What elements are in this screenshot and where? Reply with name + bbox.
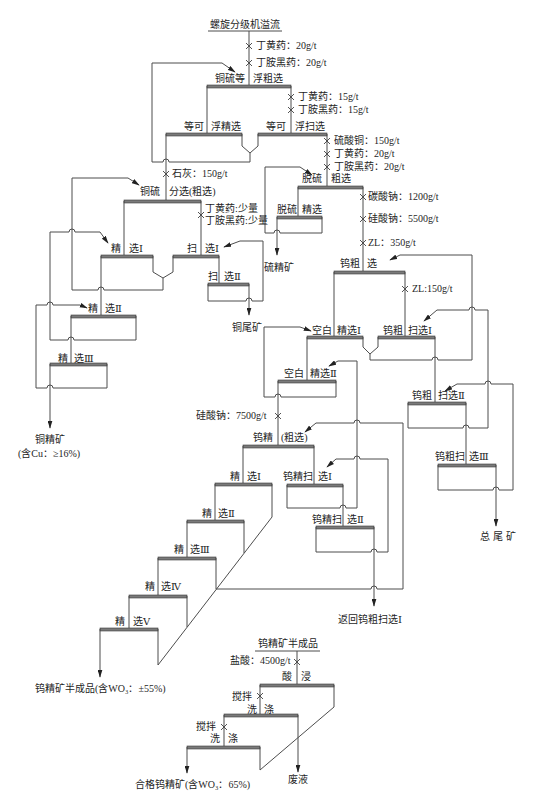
cell-cu-scav-1 [173, 255, 219, 258]
cell-w-cleaner-2 [187, 520, 244, 523]
cell-label: 钨粗扫 [435, 451, 465, 463]
cell-label: 扫 [187, 243, 197, 255]
product-copper-grade: (含Cu：≥16%) [18, 448, 80, 460]
product-w-semi: 钨精矿半成品(含WO₃：±55%) [35, 683, 166, 695]
reagent-label: 丁黄药：20g/t [256, 40, 317, 52]
cell-label: 脱硫 [302, 173, 322, 185]
reagent-label: 丁黄药：20g/t [334, 148, 395, 160]
cell-acid-leach [260, 684, 334, 687]
cell-label: 浮扫选 [295, 121, 325, 133]
reagent-label: 丁胺黑药:少量 [205, 215, 268, 227]
cell-label: 浸 [301, 671, 311, 683]
reagent-label: 丁胺黑药：15g/t [298, 104, 369, 116]
cell-cu-scav-2 [208, 283, 249, 286]
cell-label: 选 [367, 258, 377, 270]
cell-label: 铜硫等 [215, 73, 245, 85]
cell-w-rough-scav-3 [438, 464, 496, 467]
feed-label: 螺旋分级机溢流 [210, 19, 280, 31]
cell-cu-rougher [207, 85, 291, 88]
cell-label: 钨粗 [383, 325, 403, 337]
cell-wash-1 [224, 714, 298, 717]
cell-label: 精 [115, 616, 125, 628]
cell-w-cleaner-3 [158, 557, 216, 560]
reagent-label: 搅拌 [232, 691, 252, 703]
cell-label: 钨粗 [340, 258, 360, 270]
funnel-line [242, 134, 258, 162]
reagent-label: ZL:150g/t [412, 283, 453, 295]
cell-blank-cleaner-2 [278, 380, 336, 383]
product-waste-liquor: 废液 [288, 774, 308, 786]
cell-label: 酸 [282, 671, 292, 683]
cell-label: 扫选Ⅰ [408, 325, 432, 337]
cell-label: 钨精 [253, 432, 273, 444]
funnel-line [363, 337, 378, 360]
cell-label: 钨粗 [412, 390, 432, 402]
cell-label: 选Ⅴ [133, 616, 150, 628]
cell-cu-cleaner [166, 133, 242, 136]
cell-label: 等可 [266, 121, 286, 133]
cell-w-conc-scav-2 [316, 526, 374, 529]
reagent-label: 石灰：150g/t [172, 168, 228, 180]
cell-label: 选Ⅰ [318, 471, 332, 483]
cell-label: 精 [58, 353, 68, 365]
cell-label: 精 [230, 471, 240, 483]
cell-w-cleaner-4 [129, 595, 187, 598]
reagent-label: 硅酸钠：7500g/t [196, 410, 267, 422]
leach-liquor-line [260, 685, 334, 770]
cell-label: 涤 [228, 733, 238, 745]
cell-label: 洗 [247, 704, 257, 716]
cell-desulf-rougher [298, 186, 363, 189]
cell-label: 精 [145, 581, 155, 593]
cell-label: 钨精扫 [312, 514, 342, 526]
cell-label: 选Ⅰ [205, 243, 219, 255]
reagent-label: 搅拌 [196, 721, 216, 733]
reagent-label: ZL：350g/t [368, 237, 416, 249]
cell-w-conc-rougher [243, 445, 314, 448]
reagent-label: 碳酸钠：1200g/t [368, 191, 439, 203]
cleaner2-tail-return-line [50, 229, 136, 340]
cell-cu-scavenger [258, 133, 327, 136]
product-total-tailings: 总尾矿 [480, 531, 519, 543]
cell-label: 选Ⅰ [129, 243, 143, 255]
cell-label: 选Ⅲ [190, 544, 210, 556]
cell-label: 涤 [264, 704, 274, 716]
reagent-label: 丁胺黑药：20g/t [256, 57, 327, 69]
product-return-label: 返回钨粗扫选Ⅰ [338, 614, 402, 626]
reagent-label: 丁黄药：15g/t [298, 91, 359, 103]
cell-label: 分选(粗选) [169, 186, 216, 198]
cell-label: 铜硫 [140, 186, 160, 198]
cell-label: 空白 [312, 325, 332, 337]
product-copper-concentrate: 铜精矿 [35, 434, 65, 446]
reagent-label: 盐酸：4500g/t [230, 655, 291, 667]
reagent-label: 硫酸铜：150g/t [334, 135, 400, 147]
cell-label: 选Ⅱ [218, 508, 235, 520]
cell-desulf-cleaner [277, 216, 322, 219]
cell-label: 空白 [284, 368, 304, 380]
cell-w-conc-scav-1 [287, 484, 343, 487]
reagent-label: 硅酸钠：5500g/t [368, 213, 439, 225]
product-copper-tailings: 铜尾矿 [232, 322, 262, 334]
cell-label: 选Ⅱ [105, 303, 122, 315]
w-semi-header: 钨精矿半成品 [258, 638, 318, 650]
cell-label: 浮粗选 [253, 73, 283, 85]
cell-cu-cleaner-2 [71, 315, 136, 318]
cell-label: 选Ⅱ [347, 514, 364, 526]
cell-w-rougher [334, 271, 405, 274]
cell-w-rough-scav-2 [408, 402, 466, 405]
cell-label: 选Ⅰ [247, 471, 261, 483]
cell-label: 粗选 [331, 173, 351, 185]
cell-wash-2 [187, 746, 260, 749]
reagent-label: 丁胺黑药：20g/t [334, 161, 405, 173]
cell-cus-separation [124, 200, 201, 203]
reagent-label: 丁黄药:少量 [205, 203, 258, 215]
cell-w-cleaner-5 [100, 628, 158, 631]
cell-label: 选Ⅳ [161, 581, 181, 593]
cell-label: 扫 [208, 271, 218, 283]
cell-label: 浮精选 [211, 121, 241, 133]
cell-label: 钨精扫 [283, 471, 313, 483]
cell-cu-cleaner-1 [101, 255, 153, 258]
cell-label: 精 [202, 508, 212, 520]
cell-label: 扫选Ⅱ [438, 390, 465, 402]
cell-label: 精 [174, 544, 184, 556]
cell-label: 脱硫 [277, 204, 297, 216]
